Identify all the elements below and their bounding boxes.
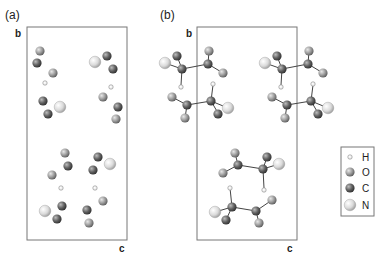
- panel-a: (a) b c: [5, 8, 127, 254]
- legend-label: C: [362, 183, 369, 194]
- axis-b-label: b: [186, 28, 192, 39]
- legend: H O C N: [341, 147, 374, 216]
- legend-label: H: [362, 152, 369, 163]
- legend-label: O: [362, 167, 370, 178]
- axis-c-label: c: [119, 243, 125, 254]
- hydrogen-atom-icon: [348, 155, 352, 159]
- panel-b-label: (b): [160, 8, 175, 22]
- panel-b: (b) b c: [159, 8, 334, 254]
- legend-label: N: [362, 200, 369, 211]
- molecule-pair-bottom: [209, 148, 285, 227]
- carbon-atom-icon: [345, 183, 354, 192]
- panel-a-label: (a): [5, 8, 20, 22]
- axis-c-label: c: [287, 243, 293, 254]
- atoms-panel-a: [32, 46, 122, 227]
- axis-b-label: b: [15, 28, 21, 39]
- nitrogen-atom-icon: [344, 199, 356, 211]
- crystal-structure-figure: (a) b c: [0, 0, 387, 256]
- oxygen-atom-icon: [345, 167, 354, 176]
